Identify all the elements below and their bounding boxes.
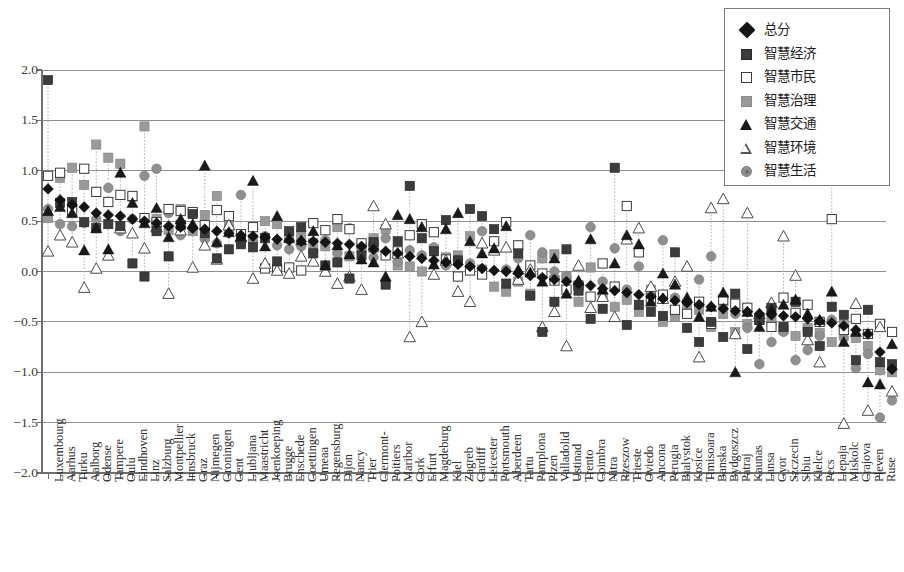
data-point bbox=[851, 314, 860, 323]
data-point bbox=[404, 214, 415, 224]
data-point bbox=[658, 235, 668, 245]
data-point bbox=[116, 190, 125, 199]
y-axis-tick-labels: 2.01.51.00.50.0−0.5−1.0−1.5−2.0 bbox=[0, 0, 38, 572]
data-point bbox=[104, 197, 113, 206]
data-point bbox=[272, 210, 283, 220]
data-point bbox=[212, 205, 221, 214]
data-point bbox=[188, 209, 197, 218]
data-point bbox=[598, 259, 607, 268]
data-point bbox=[416, 316, 428, 327]
legend-item-square-gray[interactable]: 智慧治理 bbox=[739, 90, 816, 112]
data-point bbox=[297, 266, 306, 275]
data-point bbox=[886, 386, 898, 397]
legend-item-square-filled[interactable]: 智慧经济 bbox=[739, 43, 816, 65]
data-point bbox=[586, 314, 595, 323]
data-point bbox=[428, 269, 440, 280]
square-filled-icon-shape bbox=[741, 49, 752, 60]
square-filled-icon bbox=[739, 46, 755, 62]
data-point bbox=[381, 233, 391, 243]
smart-city-scatter-chart: 2.01.51.00.50.0−0.5−1.0−1.5−2.0 Luxembou… bbox=[0, 0, 904, 572]
data-point bbox=[634, 248, 643, 257]
y-tick-label: −2.0 bbox=[0, 466, 38, 480]
data-point bbox=[875, 347, 886, 358]
data-point bbox=[212, 191, 221, 200]
data-point bbox=[321, 226, 330, 235]
data-point bbox=[345, 225, 354, 234]
data-point bbox=[356, 284, 368, 295]
data-point bbox=[718, 287, 729, 297]
x-axis bbox=[42, 473, 886, 479]
data-point bbox=[634, 262, 644, 272]
data-point bbox=[717, 193, 729, 204]
data-point bbox=[344, 239, 355, 250]
triangle-open-icon-shape bbox=[740, 143, 752, 154]
legend-item-square-open[interactable]: 智慧市民 bbox=[739, 66, 816, 88]
data-point bbox=[140, 272, 149, 281]
data-point bbox=[574, 297, 583, 306]
data-point bbox=[247, 273, 259, 284]
data-point bbox=[80, 180, 89, 189]
data-point bbox=[103, 210, 114, 221]
y-tick-label: 1.5 bbox=[0, 114, 38, 128]
square-gray-icon-shape bbox=[741, 96, 752, 107]
triangle-filled-icon bbox=[739, 116, 755, 132]
data-point bbox=[43, 75, 52, 84]
data-point bbox=[66, 236, 78, 247]
data-point bbox=[163, 288, 175, 299]
data-point bbox=[646, 307, 655, 316]
data-point bbox=[55, 219, 65, 229]
data-point bbox=[42, 246, 54, 257]
data-point bbox=[164, 252, 173, 261]
data-point bbox=[658, 311, 667, 320]
square-open-icon-shape bbox=[741, 72, 752, 83]
data-point bbox=[778, 310, 789, 321]
data-point bbox=[694, 275, 704, 285]
data-point bbox=[164, 204, 173, 213]
data-point bbox=[404, 331, 416, 342]
legend-item-diamond-filled[interactable]: 总分 bbox=[739, 19, 790, 41]
data-point bbox=[791, 355, 801, 365]
data-point bbox=[152, 164, 162, 174]
legend-item-triangle-open[interactable]: 智慧环境 bbox=[739, 137, 816, 159]
data-point bbox=[55, 168, 64, 177]
data-point bbox=[490, 282, 499, 291]
data-point bbox=[248, 243, 257, 252]
data-point bbox=[705, 202, 717, 213]
data-point bbox=[452, 207, 463, 217]
data-point bbox=[236, 190, 246, 200]
data-point bbox=[104, 220, 113, 229]
data-point bbox=[452, 286, 464, 297]
legend-item-label: 智慧环境 bbox=[764, 141, 816, 155]
data-point bbox=[609, 311, 621, 322]
data-point bbox=[127, 227, 139, 238]
data-point bbox=[814, 356, 826, 367]
data-point bbox=[392, 209, 403, 219]
chart-legend: 总分智慧经济智慧市民智慧治理智慧交通智慧环境智慧生活 bbox=[724, 8, 890, 186]
data-point bbox=[670, 248, 679, 257]
data-point bbox=[127, 214, 138, 225]
data-point bbox=[428, 255, 439, 266]
data-point bbox=[187, 262, 199, 273]
data-point bbox=[815, 341, 824, 350]
data-point bbox=[585, 280, 596, 291]
data-point bbox=[610, 244, 620, 254]
data-point bbox=[140, 171, 150, 181]
y-tick-label: −0.5 bbox=[0, 315, 38, 329]
data-point bbox=[682, 309, 691, 318]
data-point bbox=[514, 249, 523, 258]
legend-item-circle-gray[interactable]: 智慧生活 bbox=[739, 160, 816, 182]
data-point bbox=[887, 396, 897, 406]
data-point bbox=[381, 280, 390, 289]
data-point bbox=[526, 230, 536, 240]
data-point bbox=[476, 248, 487, 258]
data-point bbox=[502, 279, 511, 288]
data-point bbox=[538, 327, 547, 336]
y-tick-label: −1.5 bbox=[0, 416, 38, 430]
legend-item-triangle-filled[interactable]: 智慧交通 bbox=[739, 113, 816, 135]
data-point bbox=[743, 344, 752, 353]
data-point bbox=[767, 322, 776, 331]
data-point bbox=[573, 260, 585, 271]
data-point bbox=[405, 181, 414, 190]
y-tick-label: 1.0 bbox=[0, 164, 38, 178]
data-point bbox=[863, 349, 873, 359]
